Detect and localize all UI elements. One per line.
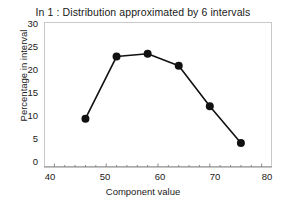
chart-title: In 1 : Distribution approximated by 6 in… — [0, 6, 286, 18]
x-tick-label-50: 50 — [92, 172, 118, 182]
y-tick-label-15: 15 — [14, 88, 38, 98]
y-tick-label-30: 30 — [14, 19, 38, 29]
y-tick-label-20: 20 — [14, 65, 38, 75]
x-tick-label-60: 60 — [147, 172, 173, 182]
chart-figure: In 1 : Distribution approximated by 6 in… — [0, 0, 286, 207]
y-tick-label-25: 25 — [14, 42, 38, 52]
x-axis-title: Component value — [0, 186, 286, 197]
y-tick-label-10: 10 — [14, 111, 38, 121]
plot-area — [44, 22, 272, 167]
x-tick-label-80: 80 — [254, 172, 280, 182]
y-tick-label-0: 0 — [14, 157, 38, 167]
x-tick-label-40: 40 — [37, 172, 63, 182]
y-tick-label-5: 5 — [14, 134, 38, 144]
x-tick-label-70: 70 — [202, 172, 228, 182]
